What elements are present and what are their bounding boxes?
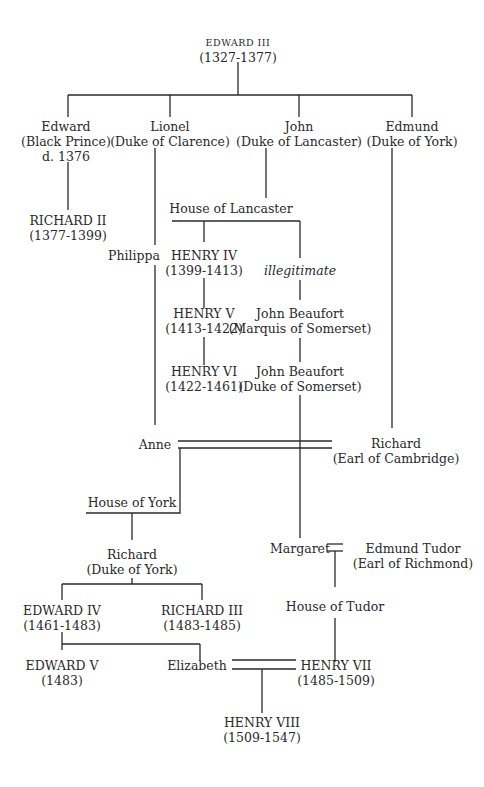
node-house-of-tudor: House of Tudor: [286, 599, 384, 614]
name: Anne: [139, 437, 172, 452]
node-lionel: Lionel (Duke of Clarence): [110, 119, 230, 149]
name: RICHARD III: [161, 603, 243, 618]
reign: (1377-1399): [29, 228, 107, 243]
node-illegitimate: illegitimate: [264, 263, 336, 278]
reign: (1483): [26, 673, 99, 688]
name: John: [236, 119, 362, 134]
node-elizabeth: Elizabeth: [167, 658, 227, 673]
name: RICHARD II: [29, 213, 107, 228]
name: Richard: [86, 547, 177, 562]
node-philippa: Philippa: [108, 248, 160, 263]
name: Margaret: [270, 541, 330, 556]
node-john-beaufort-duke: John Beaufort (Duke of Somerset): [238, 364, 361, 394]
name: EDWARD V: [26, 658, 99, 673]
reign: (1327-1377): [199, 50, 277, 65]
node-richard-cambridge: Richard (Earl of Cambridge): [333, 436, 460, 466]
node-edmund-tudor: Edmund Tudor (Earl of Richmond): [353, 541, 473, 571]
title: (Earl of Cambridge): [333, 451, 460, 466]
title: (Duke of Lancaster): [236, 134, 362, 149]
node-henry-viii: HENRY VIII (1509-1547): [223, 715, 301, 745]
title: (Duke of York): [86, 562, 177, 577]
name: John Beaufort: [229, 306, 372, 321]
title: (Duke of Somerset): [238, 379, 361, 394]
node-henry-vi: HENRY VI (1422-1461): [165, 364, 243, 394]
reign: (1422-1461): [165, 379, 243, 394]
title: (Duke of York): [366, 134, 457, 149]
label: illegitimate: [264, 263, 336, 278]
node-john-beaufort-marquis: John Beaufort (Marquis of Somerset): [229, 306, 372, 336]
name: House of York: [88, 495, 177, 510]
title: (Duke of Clarence): [110, 134, 230, 149]
node-henry-vii: HENRY VII (1485-1509): [297, 658, 375, 688]
name: HENRY IV: [165, 248, 243, 263]
title: (Black Prince): [21, 134, 111, 149]
name: Philippa: [108, 248, 160, 263]
name: Edmund: [366, 119, 457, 134]
node-edward-black-prince: Edward (Black Prince) d. 1376: [21, 119, 111, 164]
name: HENRY VII: [297, 658, 375, 673]
reign: (1483-1485): [161, 618, 243, 633]
node-anne: Anne: [139, 437, 172, 452]
name: EDWARD III: [199, 35, 277, 50]
name: Richard: [333, 436, 460, 451]
name: John Beaufort: [238, 364, 361, 379]
death: d. 1376: [21, 149, 111, 164]
name: Lionel: [110, 119, 230, 134]
node-john-lancaster: John (Duke of Lancaster): [236, 119, 362, 149]
reign: (1399-1413): [165, 263, 243, 278]
title: (Earl of Richmond): [353, 556, 473, 571]
name: HENRY VIII: [223, 715, 301, 730]
reign: (1461-1483): [23, 618, 101, 633]
node-edward-v: EDWARD V (1483): [26, 658, 99, 688]
node-edward-iv: EDWARD IV (1461-1483): [23, 603, 101, 633]
name: HENRY VI: [165, 364, 243, 379]
node-edward-iii: EDWARD III (1327-1377): [199, 35, 277, 65]
name: Edward: [21, 119, 111, 134]
name: Elizabeth: [167, 658, 227, 673]
name: Edmund Tudor: [353, 541, 473, 556]
node-margaret: Margaret: [270, 541, 330, 556]
name: House of Lancaster: [169, 201, 292, 216]
node-house-of-york: House of York: [88, 495, 177, 510]
node-richard-iii: RICHARD III (1483-1485): [161, 603, 243, 633]
node-richard-ii: RICHARD II (1377-1399): [29, 213, 107, 243]
name: EDWARD IV: [23, 603, 101, 618]
name: House of Tudor: [286, 599, 384, 614]
node-house-of-lancaster: House of Lancaster: [169, 201, 292, 216]
node-edmund-york: Edmund (Duke of York): [366, 119, 457, 149]
node-richard-york: Richard (Duke of York): [86, 547, 177, 577]
reign: (1509-1547): [223, 730, 301, 745]
node-henry-iv: HENRY IV (1399-1413): [165, 248, 243, 278]
reign: (1485-1509): [297, 673, 375, 688]
title: (Marquis of Somerset): [229, 321, 372, 336]
